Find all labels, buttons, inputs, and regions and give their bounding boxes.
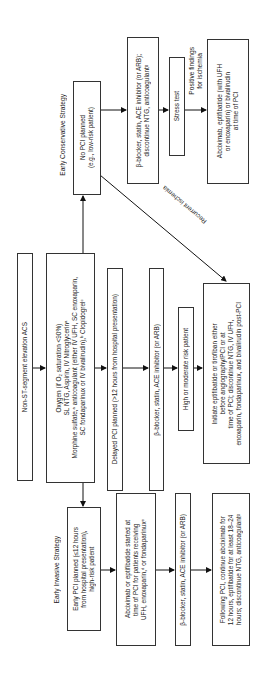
invasive-step1-node: Abciximab or eptifibatide started at tim… [116, 493, 156, 646]
conservative-step3-node: Abciximab, eptifibatide (with UFH or eno… [207, 39, 249, 184]
delayed-step2-node: High or moderate risk patient [178, 307, 194, 431]
root-node-nste-acs: Non-ST-segment elevation ACS [17, 253, 33, 481]
invasive-step2-node: β-blocker, statin, ACE inhibitor (or ARB… [175, 493, 191, 646]
invasive-start-node: Early PCI planned (≤12 hours from hospit… [67, 507, 101, 631]
stress-test-node: Stress test [169, 57, 185, 156]
invasive-step3-node: Following PCI, continue abciximab for 12… [212, 493, 250, 646]
positive-findings-label: Positive findings for ischemia [186, 43, 206, 99]
conservative-heading: Early Conservative Strategy [57, 85, 69, 185]
delayed-step3-node: Initiate eptifibatide or tirofiban eithe… [203, 283, 250, 464]
initial-treatment-text: Oxygen (if O₂ saturation <90%) SL NTG, A… [55, 277, 87, 458]
delayed-start-node: Delayed PCI planned (>12 hours from hosp… [107, 268, 123, 491]
invasive-heading: Early Invasive Strategy [51, 525, 63, 615]
conservative-start-node: No PCI planned (e.g., low-risk patient) [73, 81, 101, 195]
delayed-step1-node: β-blocker, statin, ACE inhibitor (or ARB… [149, 268, 164, 491]
root-node-text: Non-ST-segment elevation ACS [21, 322, 29, 412]
conservative-step1-node: β-blocker, statin, ACE inhibitor (or ARB… [127, 37, 159, 184]
initial-treatment-node: Oxygen (if O₂ saturation <90%) SL NTG, A… [46, 253, 95, 483]
